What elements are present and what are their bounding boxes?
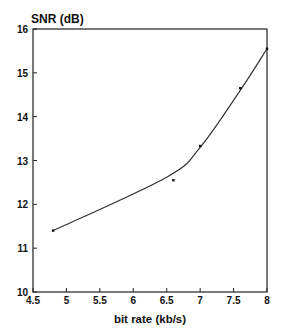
x-tick-label: 6 <box>131 295 137 306</box>
data-point <box>239 87 241 89</box>
x-tick-label: 5.5 <box>93 295 107 306</box>
data-point <box>199 145 201 147</box>
y-tick-label: 13 <box>17 156 29 167</box>
x-tick-label: 6.5 <box>160 295 174 306</box>
y-tick-label: 14 <box>17 112 29 123</box>
y-tick-label: 16 <box>17 24 29 35</box>
fitted-curve <box>53 49 267 231</box>
y-tick-label: 12 <box>17 199 29 210</box>
x-ticks: 4.555.566.577.58 <box>26 288 270 306</box>
data-point <box>266 48 268 50</box>
plot-frame <box>33 29 267 292</box>
x-tick-label: 4.5 <box>26 295 40 306</box>
data-points <box>52 48 268 232</box>
x-tick-label: 8 <box>264 295 270 306</box>
x-tick-label: 7.5 <box>227 295 241 306</box>
y-tick-label: 15 <box>17 68 29 79</box>
chart: SNR (dB) 10111213141516 4.555.566.577.58… <box>0 0 285 336</box>
y-axis-label: SNR (dB) <box>31 12 84 26</box>
x-tick-label: 5 <box>64 295 70 306</box>
x-axis-label: bit rate (kb/s) <box>114 313 186 325</box>
data-point <box>172 179 174 181</box>
y-ticks: 10111213141516 <box>17 24 37 298</box>
x-tick-label: 7 <box>197 295 203 306</box>
y-tick-label: 11 <box>17 243 28 254</box>
data-point <box>52 229 54 231</box>
